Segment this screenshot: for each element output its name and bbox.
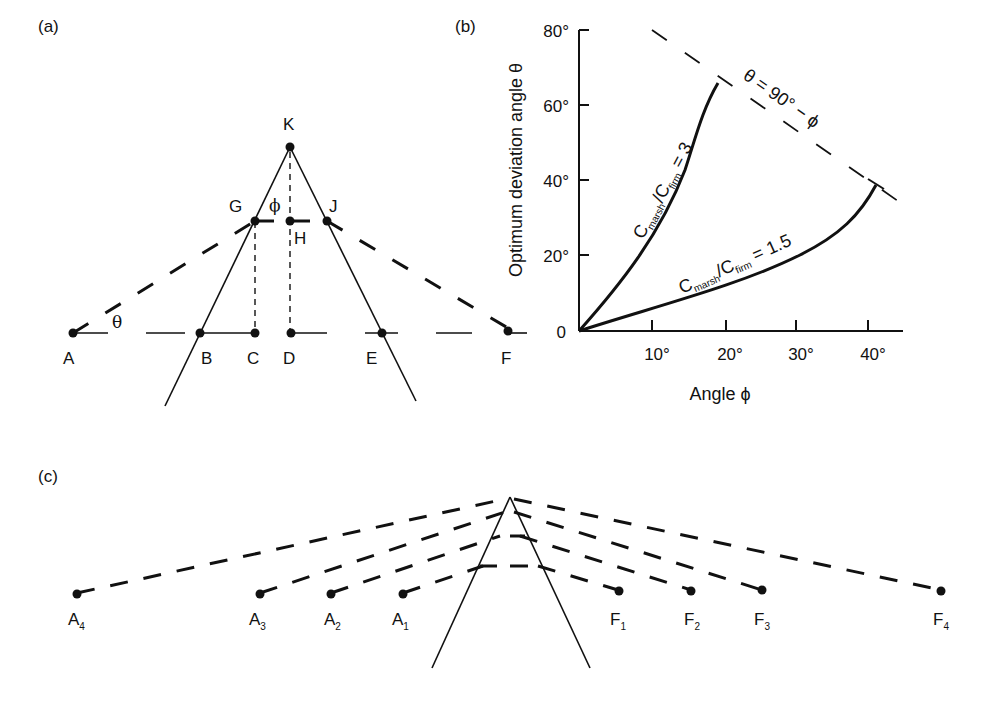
c-chords [480, 536, 528, 566]
point-A3 [256, 590, 265, 599]
label-A1: A1 [392, 610, 409, 632]
label-F2: F2 [684, 610, 700, 632]
label-phi: ϕ [269, 195, 281, 215]
point-C [251, 329, 260, 338]
label-E: E [366, 349, 377, 368]
y-tick-0: 0 [557, 323, 566, 342]
point-J [323, 217, 332, 226]
x-ticks [652, 320, 868, 331]
x-tick-40: 40° [860, 345, 886, 364]
panel-c: (c) [38, 467, 949, 668]
x-tick-30: 30° [788, 345, 814, 364]
figure-canvas: (a) [0, 0, 989, 708]
y-axis-title: Optimum deviation angle θ [506, 63, 526, 277]
label-K: K [283, 115, 295, 134]
label-G: G [229, 197, 242, 216]
point-A4 [73, 590, 82, 599]
label-J: J [329, 197, 338, 216]
label-A4: A4 [68, 610, 85, 632]
y-tick-80: 80° [543, 22, 569, 41]
label-F1: F1 [610, 610, 626, 632]
y-tick-20: 20° [543, 247, 569, 266]
label-H: H [294, 229, 306, 248]
point-A1 [399, 590, 408, 599]
panel-c-label: (c) [38, 467, 58, 486]
point-F2 [687, 587, 696, 596]
limit-line-dashed [652, 30, 908, 208]
point-G [251, 217, 260, 226]
label-F: F [501, 349, 511, 368]
panel-b-label: (b) [455, 17, 476, 36]
label-C: C [247, 349, 259, 368]
ray-JF [327, 221, 508, 328]
point-B [196, 329, 205, 338]
point-K [286, 143, 295, 152]
c-points [73, 586, 946, 599]
point-F1 [615, 587, 624, 596]
x-tick-10: 10° [644, 345, 670, 364]
label-B: B [201, 349, 212, 368]
curve-ratio-3-label: Cmarsh/Cfirm = 3 [629, 139, 698, 243]
label-F3: F3 [754, 610, 770, 632]
panel-a-label: (a) [38, 17, 59, 36]
left-slope-line [165, 147, 290, 406]
label-A: A [63, 349, 75, 368]
label-D: D [283, 349, 295, 368]
label-theta: θ [112, 312, 122, 332]
y-tick-60: 60° [543, 97, 569, 116]
label-A2: A2 [324, 610, 341, 632]
point-F4 [937, 587, 946, 596]
point-A2 [327, 590, 336, 599]
point-F3 [758, 586, 767, 595]
y-ticks [579, 30, 589, 255]
c-left-slope-line [432, 497, 510, 668]
panel-b-chart: (b) 80° 60° 40° 20° 0 10° 20° 30° 40° A [455, 17, 908, 404]
label-A3: A3 [249, 610, 266, 632]
c-right-rays [514, 499, 941, 590]
label-F4: F4 [933, 610, 949, 632]
right-slope-line [290, 147, 416, 401]
point-D [287, 329, 296, 338]
c-left-rays [77, 499, 505, 593]
point-F [504, 327, 513, 336]
point-H [286, 217, 295, 226]
y-tick-40: 40° [543, 172, 569, 191]
x-axis-title: Angle ϕ [689, 384, 750, 404]
point-A [69, 329, 78, 338]
point-E [378, 329, 387, 338]
x-tick-20: 20° [717, 345, 743, 364]
panel-a: (a) [38, 17, 527, 406]
limit-line-label: θ = 90° − ϕ [740, 65, 824, 132]
